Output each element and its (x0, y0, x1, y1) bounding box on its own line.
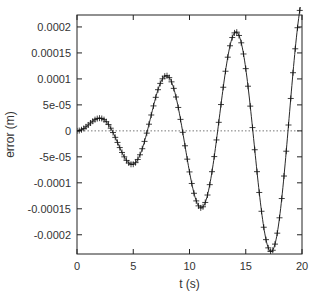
plus-marker (171, 85, 177, 91)
plus-marker (252, 147, 258, 153)
plus-marker (191, 190, 197, 196)
plus-marker (261, 224, 267, 230)
plus-marker (184, 156, 190, 162)
x-tick-label: 5 (130, 260, 136, 272)
plus-marker (247, 103, 253, 109)
y-tick-label: -0.00015 (28, 203, 71, 215)
plus-marker (211, 154, 217, 160)
plus-marker (279, 196, 285, 202)
y-tick-label: -5e-05 (39, 151, 71, 163)
plus-marker (243, 66, 249, 72)
plus-marker (180, 129, 186, 135)
plus-marker (178, 116, 184, 122)
x-tick-label: 10 (183, 260, 195, 272)
plus-marker (148, 112, 154, 118)
plus-marker (151, 103, 157, 109)
plus-marker (209, 169, 215, 175)
y-tick-label: 0.0001 (37, 73, 71, 85)
error-vs-time-chart: 0.00020.000150.00015e-050-5e-05-0.0001-0… (0, 0, 319, 300)
plus-marker (207, 182, 213, 188)
x-axis-ticks: 05101520 (74, 15, 308, 272)
plus-marker (218, 102, 224, 108)
plus-marker (155, 87, 161, 93)
plus-marker (272, 241, 278, 247)
x-axis-label: t (s) (179, 277, 200, 291)
plus-marker (146, 121, 152, 127)
plus-marker (238, 40, 244, 46)
plus-marker (187, 169, 193, 175)
x-tick-label: 0 (74, 260, 80, 272)
plus-marker (139, 146, 145, 152)
plus-marker (220, 84, 226, 90)
plus-marker (277, 215, 283, 221)
plus-marker (223, 68, 229, 74)
plus-marker (283, 148, 289, 154)
plus-marker (214, 137, 220, 143)
plus-marker (259, 208, 265, 214)
plus-marker (216, 119, 222, 125)
plus-marker (227, 43, 233, 49)
plus-marker (297, 7, 303, 13)
y-tick-label: -0.0001 (34, 177, 71, 189)
plus-marker (288, 95, 294, 101)
plus-marker (241, 51, 247, 57)
plus-marker (290, 70, 296, 76)
plot-frame (77, 15, 302, 254)
plus-marker (256, 189, 262, 195)
plus-marker (263, 237, 269, 243)
y-tick-label: 0.00015 (31, 47, 71, 59)
plus-marker (281, 173, 287, 179)
plus-marker (182, 143, 188, 149)
y-tick-label: -0.0002 (34, 229, 71, 241)
plus-marker (189, 180, 195, 186)
plus-marker (153, 94, 159, 100)
plus-marker (245, 83, 251, 89)
plus-marker (205, 192, 211, 198)
y-tick-label: 5e-05 (43, 99, 71, 111)
plus-marker (274, 230, 280, 236)
plus-marker (250, 125, 256, 131)
plus-marker (254, 169, 260, 175)
plus-marker (175, 104, 181, 110)
plus-marker (299, 0, 305, 1)
plus-marker (292, 46, 298, 52)
x-tick-label: 15 (240, 260, 252, 272)
y-tick-label: 0 (65, 125, 71, 137)
plus-marker (225, 54, 231, 60)
plus-marker (295, 25, 301, 31)
data-point-markers (74, 0, 305, 255)
y-axis-label: error (m) (3, 111, 17, 158)
x-tick-label: 20 (296, 260, 308, 272)
plus-marker (173, 94, 179, 100)
y-tick-label: 0.0002 (37, 21, 71, 33)
plus-marker (142, 138, 148, 144)
plus-marker (286, 122, 292, 128)
